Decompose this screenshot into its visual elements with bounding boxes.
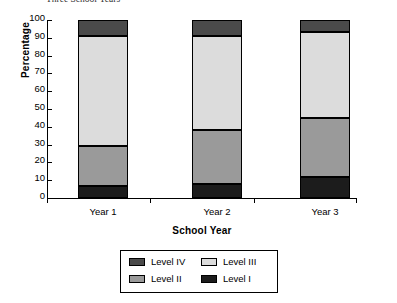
y-tick: 60 [5,91,52,92]
x-tick-label: Year 3 [290,206,360,217]
bar-segment-level-i[interactable] [78,186,128,198]
legend-item-level-i[interactable]: Level I [201,274,273,284]
x-tick-label: Year 1 [68,206,138,217]
y-tick-mark [48,91,52,92]
bar-segment-level-iv[interactable] [78,20,128,36]
y-tick: 100 [5,20,52,21]
y-tick-label: 10 [34,173,45,183]
legend-swatch [201,275,217,283]
bar-segment-level-iii[interactable] [192,36,242,130]
y-tick: 40 [5,127,52,128]
legend-label: Level III [223,257,256,267]
bar-segment-level-ii[interactable] [78,146,128,185]
bar-year-1[interactable] [78,20,128,198]
y-axis-title: Percentage [20,22,31,78]
y-tick-label: 90 [34,31,45,41]
y-tick-mark [48,38,52,39]
y-tick-mark [48,73,52,74]
y-tick-label: 100 [29,13,45,23]
bar-segment-level-i[interactable] [192,184,242,198]
y-tick: 0 [5,198,52,199]
y-tick-mark [48,162,52,163]
x-axis-line [47,198,357,199]
legend-label: Level I [223,274,251,284]
legend-entries: Level IVLevel IIILevel IILevel I [129,257,273,284]
legend-label: Level IV [151,257,185,267]
bar-segment-level-iii[interactable] [78,36,128,146]
x-tick-mark [47,199,48,203]
legend-label: Level II [151,274,182,284]
legend-item-level-ii[interactable]: Level II [129,274,201,284]
legend-item-level-iii[interactable]: Level III [201,257,273,267]
y-tick-label: 70 [34,66,45,76]
y-tick-label: 40 [34,120,45,130]
y-tick-mark [48,109,52,110]
y-tick: 20 [5,162,52,163]
bar-segment-level-i[interactable] [300,177,350,198]
y-tick-mark [48,198,52,199]
bar-segment-level-iv[interactable] [300,20,350,32]
y-tick-label: 60 [34,84,45,94]
y-tick: 30 [5,145,52,146]
y-tick: 50 [5,109,52,110]
y-tick-mark [48,180,52,181]
x-tick-mark [150,199,151,203]
x-axis-title: School Year [47,225,357,236]
legend-swatch [129,258,145,266]
plot-area: 0102030405060708090100 Year 1Year 2Year … [47,20,357,198]
figure-caption: Three School Years [46,0,246,4]
y-tick-label: 80 [34,49,45,59]
y-tick: 10 [5,180,52,181]
bar-segment-level-iii[interactable] [300,32,350,117]
stacked-bar-chart-figure: Three School Years 010203040506070809010… [0,0,397,303]
legend-item-level-iv[interactable]: Level IV [129,257,201,267]
y-tick-mark [48,20,52,21]
x-tick-label: Year 2 [182,206,252,217]
y-tick-mark [48,145,52,146]
x-tick-mark [356,199,357,203]
chart-legend: Level IVLevel IIILevel IILevel I [120,250,278,293]
y-tick-label: 20 [34,155,45,165]
x-tick-mark [254,199,255,203]
y-tick-label: 0 [40,191,45,201]
y-tick-mark [48,127,52,128]
bar-segment-level-ii[interactable] [192,130,242,183]
bar-year-2[interactable] [192,20,242,198]
y-tick-mark [48,56,52,57]
bar-segment-level-ii[interactable] [300,118,350,177]
y-tick-label: 30 [34,138,45,148]
legend-swatch [201,258,217,266]
legend-swatch [129,275,145,283]
bar-year-3[interactable] [300,20,350,198]
y-tick-label: 50 [34,102,45,112]
bar-segment-level-iv[interactable] [192,20,242,36]
